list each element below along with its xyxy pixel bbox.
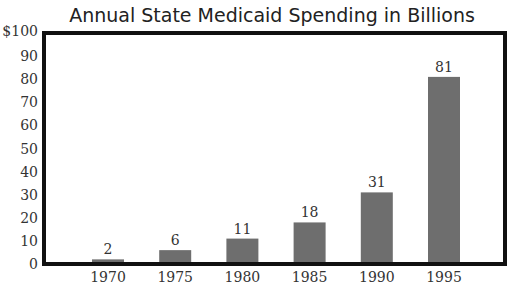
- y-tick-label: 80: [20, 71, 38, 87]
- y-axis: 0102030405060708090$100: [2, 23, 38, 272]
- y-tick-label: 30: [20, 187, 38, 203]
- y-tick-label: 10: [20, 233, 38, 249]
- data-label-1970: 2: [104, 241, 113, 257]
- x-tick-label: 1985: [292, 269, 328, 285]
- data-label-1980: 11: [233, 221, 251, 237]
- bar-1995: [428, 77, 460, 264]
- bar-1985: [294, 222, 326, 264]
- y-tick-label: 0: [29, 256, 38, 272]
- bar-1990: [361, 192, 393, 264]
- data-label-1975: 6: [171, 232, 180, 248]
- data-labels: 2611183181: [104, 59, 453, 257]
- y-tick-label: 60: [20, 117, 38, 133]
- x-tick-label: 1970: [90, 269, 126, 285]
- y-tick-label: 90: [20, 48, 38, 64]
- y-tick-label: 50: [20, 141, 38, 157]
- data-label-1990: 31: [368, 174, 386, 190]
- bar-chart: Annual State Medicaid Spending in Billio…: [0, 0, 514, 286]
- bars: [92, 77, 460, 264]
- bar-1975: [159, 250, 191, 264]
- data-label-1995: 81: [435, 59, 453, 75]
- y-tick-label: $100: [2, 23, 38, 39]
- chart-title: Annual State Medicaid Spending in Billio…: [69, 4, 475, 26]
- y-tick-label: 70: [20, 94, 38, 110]
- x-tick-label: 1990: [359, 269, 395, 285]
- x-tick-label: 1995: [426, 269, 462, 285]
- bar-1980: [226, 239, 258, 264]
- x-tick-label: 1980: [225, 269, 261, 285]
- data-label-1985: 18: [301, 204, 319, 220]
- y-tick-label: 20: [20, 210, 38, 226]
- x-tick-label: 1975: [157, 269, 193, 285]
- y-tick-label: 40: [20, 164, 38, 180]
- x-axis: 197019751980198519901995: [90, 269, 462, 285]
